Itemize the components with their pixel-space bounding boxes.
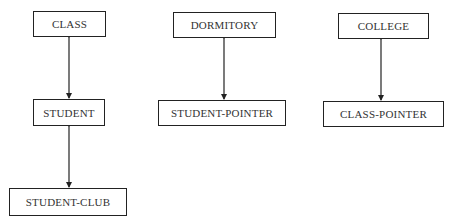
node-student-club: STUDENT-CLUB <box>9 188 127 216</box>
node-label: STUDENT <box>43 107 95 119</box>
node-label: STUDENT-POINTER <box>171 107 273 119</box>
node-class-pointer: CLASS-POINTER <box>323 101 444 127</box>
node-label: DORMITORY <box>191 19 259 31</box>
node-dormitory: DORMITORY <box>173 12 276 38</box>
node-label: COLLEGE <box>358 20 410 32</box>
node-student: STUDENT <box>33 99 105 126</box>
node-label: CLASS-POINTER <box>340 108 427 120</box>
node-label: CLASS <box>52 18 87 30</box>
node-student-pointer: STUDENT-POINTER <box>158 100 286 126</box>
node-college: COLLEGE <box>338 13 429 39</box>
node-label: STUDENT-CLUB <box>26 196 111 208</box>
node-class: CLASS <box>33 11 106 37</box>
